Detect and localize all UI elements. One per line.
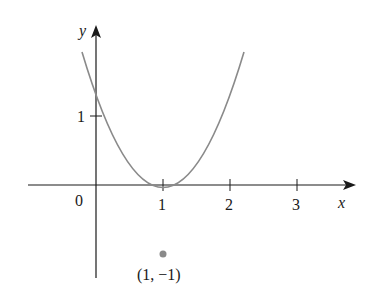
- x-tick-label-1: 1: [158, 196, 166, 213]
- origin-label: 0: [75, 192, 83, 209]
- x-tick-label-2: 2: [225, 196, 233, 213]
- parabola-curve: [82, 52, 244, 188]
- minimum-point: [160, 251, 167, 258]
- y-axis-label: y: [77, 22, 87, 40]
- parabola-graph: 0 1 2 3 1 x y (1, −1): [0, 0, 374, 306]
- x-axis-label: x: [337, 194, 345, 211]
- minimum-point-label: (1, −1): [137, 266, 181, 284]
- x-tick-label-3: 3: [292, 196, 300, 213]
- y-tick-label-1: 1: [77, 108, 85, 125]
